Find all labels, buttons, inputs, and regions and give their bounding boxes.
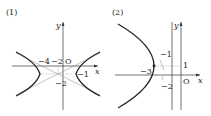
graphs: (1) x y O −4 −2 −1 −2 (2) x y O <box>0 0 211 116</box>
tick-y-neg2: −2 <box>55 79 67 88</box>
panel-1-label: (1) <box>6 8 17 17</box>
tick-x-neg4: −4 <box>38 57 50 66</box>
tick-y-1: 1 <box>183 61 188 70</box>
tick-x-neg2: −2 <box>161 82 173 91</box>
label-leader-neg1 <box>160 60 164 70</box>
origin-label: O <box>65 57 72 66</box>
y-arrow-icon <box>180 22 183 26</box>
label-leader-neg2 <box>162 76 163 80</box>
x-axis-label: x <box>95 67 100 76</box>
tick-y-neg1: −1 <box>77 70 89 79</box>
panel-2-label: (2) <box>112 8 123 17</box>
x-axis-label: x <box>198 76 203 85</box>
panel-1: (1) x y O −4 −2 −1 −2 <box>6 8 100 110</box>
y-axis-label: y <box>55 21 61 30</box>
panel-2: (2) x y O −1 −3 −2 1 <box>112 8 203 110</box>
tick-x-neg3: −3 <box>140 67 152 76</box>
hyperbola-left-branch <box>16 52 40 96</box>
focus-point <box>153 65 156 68</box>
parabola-curve <box>118 24 154 108</box>
origin-label: O <box>183 77 190 86</box>
tick-x-neg1: −1 <box>160 50 172 59</box>
y-arrow-icon <box>62 22 65 26</box>
y-axis-label: y <box>173 21 179 30</box>
tick-x-neg2: −2 <box>51 57 63 66</box>
